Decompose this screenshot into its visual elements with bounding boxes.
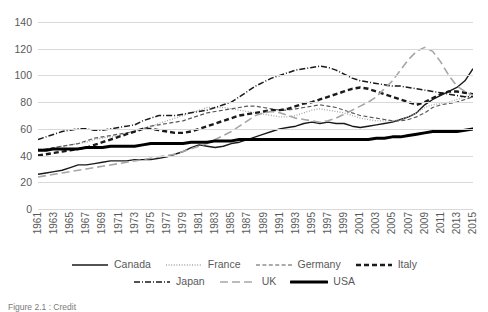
y-tick-120: 120 (0, 44, 32, 55)
series-line-canada (38, 69, 473, 175)
series-line-usa (38, 129, 473, 150)
x-tick-1977: 1977 (162, 212, 172, 234)
legend-row-2: JapanUKUSA (0, 273, 488, 290)
plot-area (38, 22, 473, 209)
legend-key-canada (71, 260, 109, 270)
x-tick-2011: 2011 (436, 212, 446, 234)
legend-item-japan[interactable]: Japan (133, 276, 205, 287)
x-tick-1961: 1961 (33, 212, 43, 234)
y-tick-0: 0 (0, 204, 32, 215)
x-tick-1971: 1971 (114, 212, 124, 234)
x-tick-2003: 2003 (371, 212, 381, 234)
x-tick-1981: 1981 (194, 212, 204, 234)
x-tick-1975: 1975 (146, 212, 156, 234)
x-tick-1965: 1965 (65, 212, 75, 234)
x-tick-1991: 1991 (275, 212, 285, 234)
chart-figure: 020406080100120140 196119631965196719691… (0, 0, 488, 312)
x-tick-1967: 1967 (81, 212, 91, 234)
x-tick-1979: 1979 (178, 212, 188, 234)
legend-item-canada[interactable]: Canada (71, 259, 151, 270)
y-tick-20: 20 (0, 177, 32, 188)
x-tick-2005: 2005 (387, 212, 397, 234)
x-tick-2009: 2009 (420, 212, 430, 234)
legend-item-france[interactable]: France (165, 259, 241, 270)
legend-key-usa (290, 277, 328, 287)
gridline-100 (38, 75, 473, 76)
legend-key-uk (219, 277, 257, 287)
y-tick-100: 100 (0, 70, 32, 81)
x-tick-2015: 2015 (468, 212, 478, 234)
x-tick-1963: 1963 (49, 212, 59, 234)
legend-key-italy (355, 260, 393, 270)
legend-row-1: CanadaFranceGermanyItaly (0, 256, 488, 273)
gridline-120 (38, 49, 473, 50)
x-tick-2001: 2001 (355, 212, 365, 234)
x-tick-2013: 2013 (452, 212, 462, 234)
x-tick-1985: 1985 (226, 212, 236, 234)
legend-key-germany (255, 260, 293, 270)
legend-label-italy: Italy (398, 259, 417, 270)
x-tick-1995: 1995 (307, 212, 317, 234)
gridline-40 (38, 156, 473, 157)
legend-label-canada: Canada (114, 259, 151, 270)
x-tick-1999: 1999 (339, 212, 349, 234)
legend-label-germany: Germany (298, 259, 341, 270)
gridline-0 (38, 209, 473, 210)
legend-item-germany[interactable]: Germany (255, 259, 341, 270)
x-axis: 1961196319651967196919711973197519771979… (38, 212, 473, 258)
legend-item-uk[interactable]: UK (219, 276, 277, 287)
x-tick-1983: 1983 (210, 212, 220, 234)
legend-label-france: France (208, 259, 241, 270)
gridline-140 (38, 22, 473, 23)
y-tick-80: 80 (0, 97, 32, 108)
legend-key-france (165, 260, 203, 270)
x-tick-1987: 1987 (242, 212, 252, 234)
legend-label-japan: Japan (176, 276, 205, 287)
gridline-80 (38, 102, 473, 103)
chart-lines (38, 22, 473, 209)
x-tick-2007: 2007 (404, 212, 414, 234)
y-tick-140: 140 (0, 17, 32, 28)
legend-label-usa: USA (333, 276, 355, 287)
x-tick-1993: 1993 (291, 212, 301, 234)
x-tick-1969: 1969 (97, 212, 107, 234)
legend-label-uk: UK (262, 276, 277, 287)
chart-legend: CanadaFranceGermanyItaly JapanUKUSA (0, 256, 488, 290)
figure-caption: Figure 2.1 : Credit (8, 303, 76, 312)
gridline-60 (38, 129, 473, 130)
legend-item-italy[interactable]: Italy (355, 259, 417, 270)
x-tick-1989: 1989 (259, 212, 269, 234)
x-tick-1973: 1973 (130, 212, 140, 234)
x-tick-1997: 1997 (323, 212, 333, 234)
gridline-20 (38, 182, 473, 183)
series-line-italy (38, 87, 473, 155)
legend-key-japan (133, 277, 171, 287)
y-tick-60: 60 (0, 124, 32, 135)
y-tick-40: 40 (0, 151, 32, 162)
legend-item-usa[interactable]: USA (290, 276, 355, 287)
